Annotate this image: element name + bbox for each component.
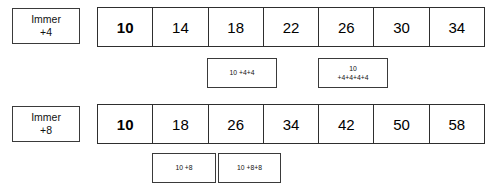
number-cell[interactable]: 10 [98,8,153,46]
number-cell[interactable]: 26 [319,8,374,46]
number-cell[interactable]: 14 [153,8,208,46]
row-label-word: Immer [31,13,61,26]
number-cell[interactable]: 58 [430,105,484,143]
number-strip-row-2: 10 18 26 34 42 50 58 [97,104,485,144]
number-cell[interactable]: 42 [319,105,374,143]
expression-line: 10 [349,64,357,73]
number-cell[interactable]: 34 [430,8,484,46]
number-cell[interactable]: 30 [374,8,429,46]
expression-box: 10 +8 [152,153,216,183]
number-cell[interactable]: 18 [153,105,208,143]
number-cell[interactable]: 22 [264,8,319,46]
number-sequence-worksheet: Immer +4 10 14 18 22 26 30 34 10 +4+4 10… [0,0,492,196]
expression-box: 10 +4+4 [207,58,277,88]
row-label-box-immer-plus-4: Immer +4 [12,8,80,44]
number-cell[interactable]: 26 [209,105,264,143]
number-cell[interactable]: 10 [98,105,153,143]
number-cell[interactable]: 50 [374,105,429,143]
row-label-step: +8 [40,124,52,137]
expression-box: 10 +4+4+4+4 [318,58,388,88]
expression-line: 10 +8+8 [237,163,262,172]
row-label-box-immer-plus-8: Immer +8 [12,106,80,142]
row-label-word: Immer [31,111,61,124]
expression-line: 10 +8 [175,163,192,172]
expression-box: 10 +8+8 [218,153,281,183]
number-strip-row-1: 10 14 18 22 26 30 34 [97,7,485,47]
number-cell[interactable]: 34 [264,105,319,143]
expression-line: +4+4+4+4 [338,73,369,82]
row-label-step: +4 [40,26,52,39]
number-cell[interactable]: 18 [209,8,264,46]
expression-line: 10 +4+4 [230,68,255,77]
